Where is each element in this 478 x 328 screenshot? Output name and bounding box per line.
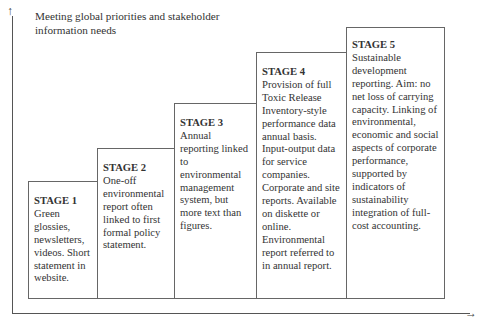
stage-5-box: STAGE 5 Sustainable development reportin… bbox=[346, 27, 445, 299]
stage-2-box: STAGE 2 One-off environmental report oft… bbox=[97, 148, 175, 299]
stage-label: STAGE 3 bbox=[180, 117, 252, 130]
stage-description: Sustainable development reporting. Aim: … bbox=[352, 52, 438, 231]
stage-4-box: STAGE 4 Provision of full Toxic Release … bbox=[256, 52, 347, 299]
stage-label: STAGE 5 bbox=[352, 39, 440, 52]
stage-1-box: STAGE 1 Green glossies, newsletters, vid… bbox=[28, 181, 98, 299]
stage-label: STAGE 2 bbox=[103, 162, 170, 175]
stage-label: STAGE 4 bbox=[262, 66, 342, 79]
stage-label: STAGE 1 bbox=[34, 195, 93, 208]
stage-description: Provision of full Toxic Release Inventor… bbox=[262, 79, 340, 271]
diagram-title: Meeting global priorities and stakeholde… bbox=[35, 9, 275, 37]
stage-description: One-off environmental report often linke… bbox=[103, 175, 164, 251]
stage-description: Green glossies, newsletters, videos. Sho… bbox=[34, 208, 90, 284]
stage-3-box: STAGE 3 Annual reporting linked to envir… bbox=[174, 103, 257, 299]
y-axis bbox=[12, 16, 13, 314]
x-axis bbox=[12, 313, 470, 314]
arrow-right-icon: → bbox=[465, 307, 477, 319]
arrow-up-icon: ↑ bbox=[7, 5, 13, 17]
stage-description: Annual reporting linked to environmental… bbox=[180, 130, 248, 231]
